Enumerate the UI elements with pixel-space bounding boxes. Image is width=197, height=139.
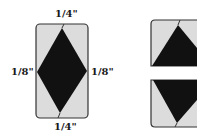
upper-triangle-piece <box>151 20 197 66</box>
bottom-margin-label: 1/4" <box>54 122 77 132</box>
lower-triangle-piece <box>151 80 197 127</box>
top-margin-label: 1/4" <box>55 9 78 19</box>
right-margin-label: 1/8" <box>91 67 114 77</box>
diamond-template-card <box>36 24 88 118</box>
left-margin-label: 1/8" <box>11 67 34 77</box>
